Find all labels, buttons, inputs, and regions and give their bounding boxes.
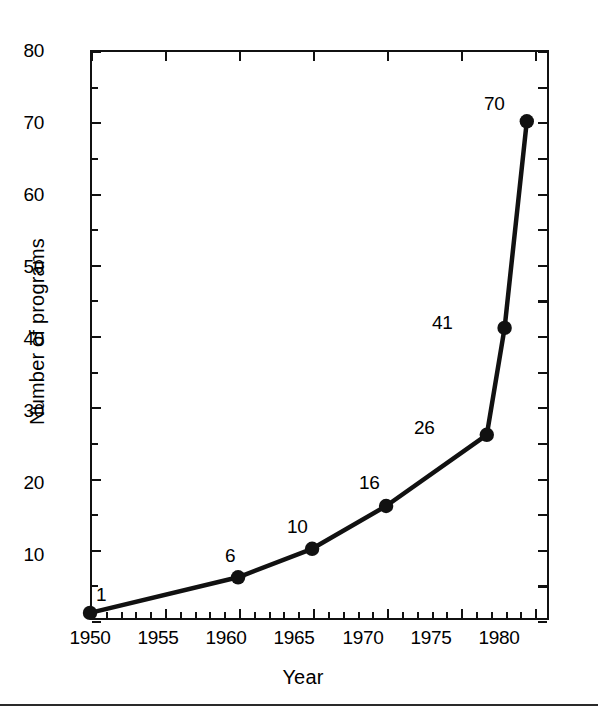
x-axis-tick-top	[387, 52, 389, 61]
y-axis-tick-right	[538, 621, 547, 623]
y-axis-tick-minor	[92, 300, 98, 302]
y-axis-tick-major	[92, 51, 101, 53]
y-tick-label: 10	[0, 545, 44, 564]
y-axis-tick-right	[538, 407, 547, 409]
x-tick-label: 1975	[396, 628, 466, 647]
y-axis-tick-right	[538, 87, 547, 89]
x-axis-tick-minor	[106, 612, 108, 618]
y-axis-tick-right	[538, 265, 547, 267]
y-axis-tick-minor	[92, 158, 98, 160]
y-axis-tick-right	[538, 514, 547, 516]
y-axis-tick-minor	[92, 372, 98, 374]
y-tick-label: 60	[0, 185, 44, 204]
point-value-label: 1	[96, 585, 106, 604]
y-axis-tick-major	[92, 621, 101, 623]
x-axis-tick-major	[239, 609, 241, 618]
y-axis-tick-major	[92, 194, 101, 196]
y-tick-label: 20	[0, 473, 44, 492]
x-axis-tick-minor	[372, 612, 374, 618]
point-value-label: 6	[225, 546, 235, 565]
y-tick-label: 80	[0, 41, 44, 60]
y-axis-tick-major	[92, 479, 101, 481]
x-axis-tick-minor	[269, 612, 271, 618]
x-axis-tick-minor	[446, 612, 448, 618]
point-value-label: 10	[287, 517, 308, 536]
x-axis-title: Year	[0, 666, 606, 689]
x-axis-tick-minor	[358, 612, 360, 618]
x-axis-tick-minor	[135, 612, 137, 618]
x-axis-tick-minor	[432, 612, 434, 618]
x-axis-tick-major	[461, 609, 463, 618]
x-tick-label: 1980	[464, 628, 534, 647]
x-axis-tick-major	[313, 609, 315, 618]
x-axis-tick-top	[461, 52, 463, 61]
y-axis-tick-minor	[92, 87, 98, 89]
y-axis-tick-right	[538, 336, 547, 338]
point-value-label: 26	[414, 418, 435, 437]
x-axis-tick-minor	[254, 612, 256, 618]
x-tick-label: 1965	[259, 628, 329, 647]
y-axis-tick-right	[538, 479, 547, 481]
y-axis-tick-right	[538, 194, 547, 196]
x-axis-tick-major	[387, 609, 389, 618]
x-axis-tick-minor	[283, 612, 285, 618]
y-axis-tick-minor	[92, 514, 98, 516]
x-axis-tick-minor	[298, 612, 300, 618]
y-axis-tick-right	[538, 122, 547, 124]
x-axis-tick-minor	[209, 612, 211, 618]
x-axis-tick-minor	[402, 612, 404, 618]
y-axis-tick-major	[92, 265, 101, 267]
x-axis-tick-minor	[520, 612, 522, 618]
y-axis-tick-right	[538, 443, 547, 445]
x-axis-tick-major	[165, 609, 167, 618]
x-axis-tick-major	[91, 609, 93, 618]
plot-frame	[90, 50, 549, 620]
line-chart-figure: Number of programs Year 80 70 60 50 40 3…	[0, 0, 606, 725]
y-axis-tick-right	[538, 51, 547, 53]
y-axis-tick-major	[92, 336, 101, 338]
y-axis-tick-major	[92, 407, 101, 409]
x-axis-tick-top	[91, 52, 93, 61]
y-axis-tick-right	[538, 550, 547, 552]
y-axis-tick-right	[538, 300, 547, 302]
x-axis-tick-minor	[328, 612, 330, 618]
x-axis-tick-top	[313, 52, 315, 61]
point-value-label: 41	[432, 313, 453, 332]
y-axis-tick-major	[92, 122, 101, 124]
y-axis-tick-major	[92, 550, 101, 552]
x-axis-tick-minor	[343, 612, 345, 618]
y-tick-label: 30	[0, 401, 44, 420]
y-axis-tick-minor	[92, 443, 98, 445]
x-axis-tick-minor	[195, 612, 197, 618]
x-axis-tick-minor	[506, 612, 508, 618]
y-axis-tick-right	[538, 229, 547, 231]
x-axis-tick-top	[535, 52, 537, 61]
y-tick-label: 50	[0, 257, 44, 276]
x-tick-label: 1970	[328, 628, 398, 647]
x-axis-tick-minor	[476, 612, 478, 618]
y-tick-label: 40	[0, 329, 44, 348]
x-axis-tick-minor	[224, 612, 226, 618]
y-axis-tick-right	[538, 372, 547, 374]
y-axis-tick-right	[538, 585, 547, 587]
page-separator-rule	[0, 704, 598, 706]
x-axis-tick-minor	[417, 612, 419, 618]
x-axis-tick-top	[165, 52, 167, 61]
y-axis-tick-right	[538, 158, 547, 160]
x-axis-tick-minor	[150, 612, 152, 618]
y-axis-tick-minor	[92, 229, 98, 231]
x-tick-label: 1955	[123, 628, 193, 647]
x-axis-tick-minor	[491, 612, 493, 618]
x-tick-label: 1960	[191, 628, 261, 647]
x-axis-tick-minor	[180, 612, 182, 618]
x-axis-tick-minor	[121, 612, 123, 618]
x-axis-tick-major	[535, 609, 537, 618]
y-tick-label: 70	[0, 113, 44, 132]
point-value-label: 70	[484, 94, 505, 113]
x-tick-label: 1950	[55, 628, 125, 647]
x-axis-tick-top	[239, 52, 241, 61]
point-value-label: 16	[359, 473, 380, 492]
